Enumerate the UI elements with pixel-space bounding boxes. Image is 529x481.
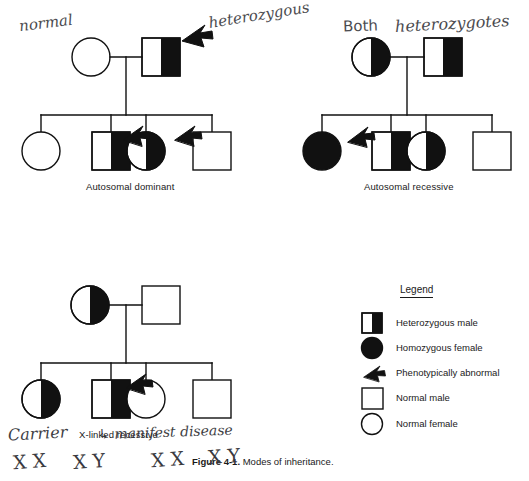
figure-canvas: Autosomal dominant Autosomal recessive X…	[0, 0, 529, 481]
handwriting-arrow-layer	[0, 0, 529, 481]
handwriting-pointer-arrow	[182, 25, 213, 47]
